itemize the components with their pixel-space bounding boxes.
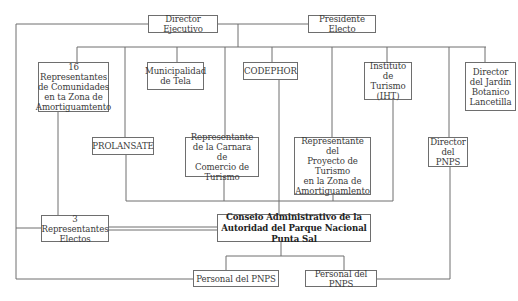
org-chart: Director Ejecutivo Presidente Electo 16 … (0, 0, 518, 301)
representantes-electos-box: 3 Representantes Electos (41, 215, 109, 242)
presidente-electo-box: Presidente Electo (308, 15, 376, 33)
personal-pnps-right-box: Personal del PNPS (305, 270, 377, 287)
representante-proyecto-box: Representante del Proyecto de Turismo en… (294, 137, 371, 195)
director-pnps-box: Director del PNPS (428, 137, 468, 167)
consejo-administrativo-box: Conseio Administrativo de la Autoridad d… (217, 214, 371, 242)
director-ejecutivo-box: Director Ejecutivo (148, 15, 218, 33)
prolansate-box: PROLANSATE (92, 137, 154, 155)
personal-pnps-left-box: Personal del PNPS (193, 270, 279, 287)
codephor-box: CODEPHOR (243, 62, 298, 80)
municipalidad-box: Municipalidad de Tela (147, 62, 204, 90)
representante-camara-box: Representante de la Carnara de Comercio … (185, 137, 259, 177)
representantes-comunidades-box: 16 Representantes de Comunidades en ta Z… (38, 62, 109, 112)
director-jardin-box: Director del Jardin Botanico Lancetilla (465, 62, 516, 111)
instituto-turismo-box: Instituto de Turismo (IHT) (364, 62, 412, 100)
